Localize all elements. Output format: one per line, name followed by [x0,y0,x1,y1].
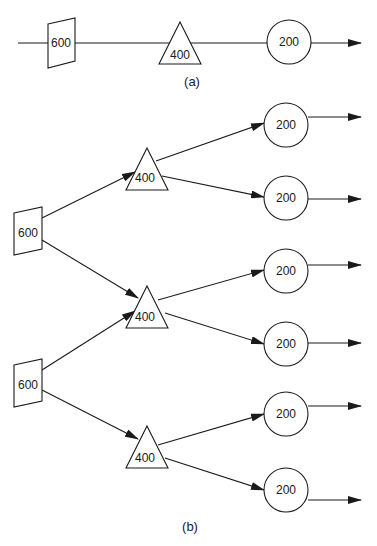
svg-text:200: 200 [276,407,296,421]
diagram-a: 600 400 200 (a) [18,18,361,89]
circle-node: 200 [264,392,308,436]
circle-node: 200 [264,103,308,147]
circle-node: 200 [264,322,308,366]
trapezoid-node: 600 [14,207,42,255]
svg-text:200: 200 [276,264,296,278]
svg-text:200: 200 [276,337,296,351]
svg-text:400: 400 [135,451,155,465]
triangle-node: 400 [126,426,168,468]
triangle-node: 400 [126,148,168,190]
triangle-node: 400 [126,286,168,328]
diagram-b: 600 600 400 400 400 200 200 [14,103,361,534]
svg-text:400: 400 [135,171,155,185]
svg-text:200: 200 [279,35,299,49]
svg-text:400: 400 [135,310,155,324]
circle-node: 200 [264,468,308,512]
caption-b: (b) [182,519,198,534]
trapezoid-node: 600 [14,359,42,407]
svg-text:200: 200 [276,191,296,205]
circle-node: 200 [264,176,308,220]
caption-a: (a) [184,74,200,89]
svg-text:200: 200 [276,118,296,132]
svg-text:600: 600 [18,378,38,392]
circle-node: 200 [264,249,308,293]
svg-text:200: 200 [276,483,296,497]
circle-node: 200 [267,20,311,64]
trapezoid-node: 600 [48,18,75,68]
svg-text:400: 400 [170,48,190,62]
svg-text:600: 600 [51,36,71,50]
flow-diagram: 600 400 200 (a) [0,0,377,546]
svg-text:600: 600 [18,226,38,240]
